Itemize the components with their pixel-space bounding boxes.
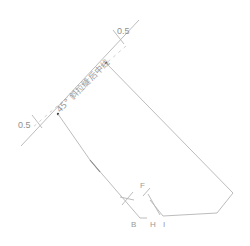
pattern-outline-left — [58, 114, 147, 218]
seam-emphasis — [90, 160, 100, 172]
pattern-diagram: 0.5 0.5 45° 斜拉缝后中线 B H I F — [0, 0, 250, 246]
f-to-i-line — [148, 194, 160, 215]
offset-top-label: 0.5 — [117, 26, 130, 36]
point-h-label: H — [150, 220, 156, 229]
point-f-label: F — [140, 181, 145, 190]
point-b-label: B — [131, 220, 136, 229]
offset-left-label: 0.5 — [18, 120, 31, 130]
point-i-label: I — [163, 220, 165, 229]
diagram-canvas: 0.5 0.5 45° 斜拉缝后中线 B H I F — [0, 0, 250, 246]
pattern-outline-right — [106, 63, 233, 216]
left-offset-tick — [32, 115, 42, 128]
center-line-label: 45° 斜拉缝后中线 — [54, 57, 112, 115]
